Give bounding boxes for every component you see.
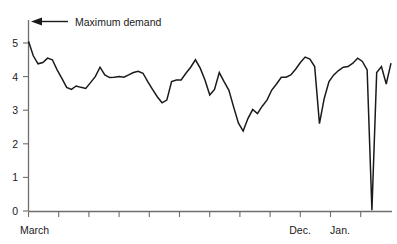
chart-background	[0, 0, 397, 244]
y-tick-label-4: 4	[12, 71, 18, 83]
x-axis-label-dec: Dec.	[289, 224, 311, 236]
chart-container: 0 1 2 3 4 5 March Dec. Jan.	[0, 0, 397, 244]
maximum-demand-label: Maximum demand	[75, 16, 162, 28]
y-tick-label-3: 3	[12, 104, 18, 116]
line-chart: 0 1 2 3 4 5 March Dec. Jan.	[0, 0, 397, 244]
x-axis-label-jan: Jan.	[330, 224, 350, 236]
y-tick-label-2: 2	[12, 138, 18, 150]
y-tick-label-5: 5	[12, 37, 18, 49]
x-axis-label-march: March	[20, 224, 49, 236]
y-tick-label-1: 1	[12, 171, 18, 183]
y-tick-label-0: 0	[12, 205, 18, 217]
